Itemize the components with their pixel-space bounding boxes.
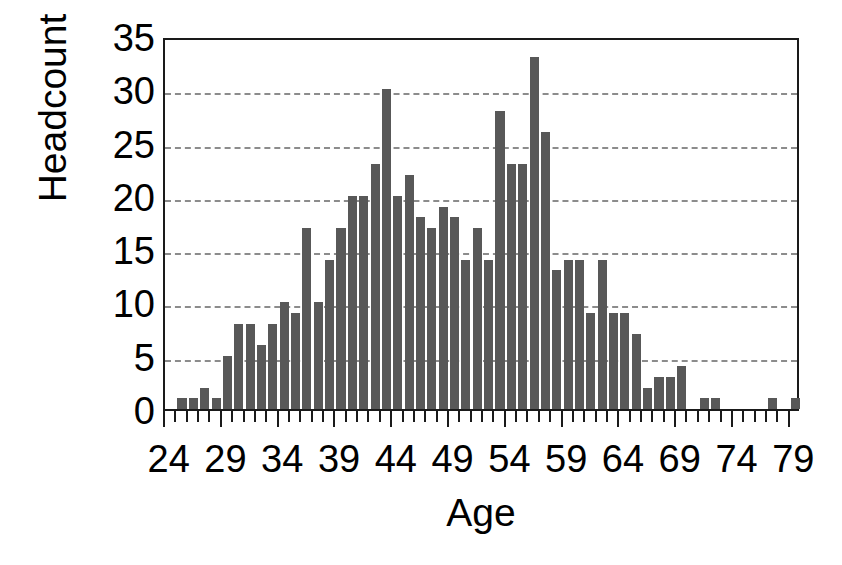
bar bbox=[530, 57, 539, 409]
bar bbox=[768, 398, 777, 409]
x-tick-minor bbox=[458, 411, 460, 422]
x-tick-major bbox=[504, 411, 506, 427]
bars-layer bbox=[165, 40, 797, 409]
x-tick-minor bbox=[515, 411, 517, 422]
x-tick-minor bbox=[526, 411, 528, 422]
x-tick-minor bbox=[606, 411, 608, 422]
x-tick-minor bbox=[685, 411, 687, 422]
bar bbox=[189, 398, 198, 409]
x-tick-label: 79 bbox=[748, 440, 838, 478]
x-tick-minor bbox=[174, 411, 176, 422]
x-tick-minor bbox=[663, 411, 665, 422]
bar bbox=[371, 164, 380, 409]
x-tick-minor bbox=[254, 411, 256, 422]
bar bbox=[461, 260, 470, 409]
bar bbox=[791, 398, 800, 409]
bar bbox=[598, 260, 607, 409]
bar bbox=[427, 228, 436, 409]
bar bbox=[552, 270, 561, 409]
x-tick-minor bbox=[572, 411, 574, 422]
x-tick-minor bbox=[538, 411, 540, 422]
bar bbox=[564, 260, 573, 409]
bar bbox=[575, 260, 584, 409]
bar bbox=[643, 388, 652, 409]
y-tick-label: 0 bbox=[55, 392, 155, 430]
x-tick-minor bbox=[265, 411, 267, 422]
x-tick-minor bbox=[413, 411, 415, 422]
y-tick-label: 35 bbox=[55, 19, 155, 57]
x-tick-minor bbox=[708, 411, 710, 422]
x-tick-minor bbox=[356, 411, 358, 422]
x-tick-major bbox=[333, 411, 335, 427]
x-tick-minor bbox=[776, 411, 778, 422]
bar bbox=[620, 313, 629, 409]
bar bbox=[268, 324, 277, 409]
bar bbox=[314, 302, 323, 409]
x-tick-minor bbox=[208, 411, 210, 422]
bar bbox=[234, 324, 243, 409]
x-tick-minor bbox=[765, 411, 767, 422]
x-axis-title: Age bbox=[163, 493, 799, 532]
x-tick-minor bbox=[549, 411, 551, 422]
x-tick-major bbox=[220, 411, 222, 427]
x-tick-minor bbox=[367, 411, 369, 422]
bar bbox=[393, 196, 402, 409]
x-tick-minor bbox=[742, 411, 744, 422]
x-tick-minor bbox=[629, 411, 631, 422]
x-axis-tick-labels: 242934394449545964697479 bbox=[0, 440, 842, 490]
y-tick-label: 20 bbox=[55, 179, 155, 217]
y-tick-label: 15 bbox=[55, 232, 155, 270]
x-tick-minor bbox=[424, 411, 426, 422]
x-tick-major bbox=[561, 411, 563, 427]
x-tick-minor bbox=[640, 411, 642, 422]
bar bbox=[325, 260, 334, 409]
x-tick-minor bbox=[470, 411, 472, 422]
bar bbox=[609, 313, 618, 409]
x-tick-minor bbox=[651, 411, 653, 422]
bar bbox=[677, 366, 686, 409]
y-tick-label: 10 bbox=[55, 285, 155, 323]
bar bbox=[473, 228, 482, 409]
bar bbox=[257, 345, 266, 409]
bar bbox=[302, 228, 311, 409]
bar bbox=[200, 388, 209, 409]
y-tick-label: 30 bbox=[55, 72, 155, 110]
bar bbox=[382, 89, 391, 409]
x-tick-minor bbox=[379, 411, 381, 422]
bar bbox=[484, 260, 493, 409]
x-tick-minor bbox=[186, 411, 188, 422]
bar bbox=[541, 132, 550, 409]
bar bbox=[518, 164, 527, 409]
bar bbox=[666, 377, 675, 409]
x-tick-major bbox=[390, 411, 392, 427]
y-tick-label: 5 bbox=[55, 339, 155, 377]
x-axis-ticks bbox=[163, 411, 799, 427]
bar bbox=[586, 313, 595, 409]
bar bbox=[507, 164, 516, 409]
x-tick-minor bbox=[436, 411, 438, 422]
x-tick-minor bbox=[243, 411, 245, 422]
bar bbox=[654, 377, 663, 409]
x-tick-minor bbox=[288, 411, 290, 422]
bar bbox=[450, 217, 459, 409]
plot-area bbox=[163, 38, 799, 411]
x-tick-minor bbox=[492, 411, 494, 422]
x-tick-minor bbox=[322, 411, 324, 422]
bar bbox=[700, 398, 709, 409]
bar bbox=[711, 398, 720, 409]
x-tick-minor bbox=[402, 411, 404, 422]
x-tick-major bbox=[617, 411, 619, 427]
x-tick-minor bbox=[197, 411, 199, 422]
x-tick-major bbox=[163, 411, 165, 427]
bar bbox=[439, 207, 448, 409]
bar bbox=[359, 196, 368, 409]
x-tick-minor bbox=[299, 411, 301, 422]
bar bbox=[348, 196, 357, 409]
bar bbox=[223, 356, 232, 409]
x-tick-major bbox=[731, 411, 733, 427]
bar bbox=[177, 398, 186, 409]
x-tick-minor bbox=[595, 411, 597, 422]
x-tick-minor bbox=[697, 411, 699, 422]
x-tick-minor bbox=[311, 411, 313, 422]
bar bbox=[495, 111, 504, 409]
